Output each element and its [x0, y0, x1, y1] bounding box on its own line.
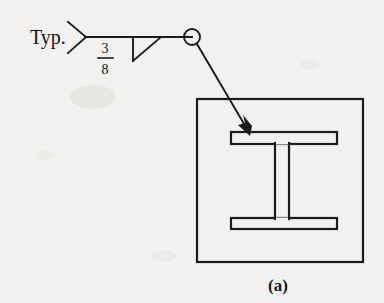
figure-container: Typ. 3 8: [0, 0, 384, 303]
fillet-weld-triangle-icon: [133, 37, 161, 61]
fraction-numerator: 3: [102, 41, 109, 56]
detail-plate-box: [197, 99, 363, 262]
tail-symbol: [68, 22, 86, 53]
fraction-denominator: 8: [102, 62, 109, 77]
figure-caption: (a): [268, 276, 288, 295]
weld-size-fraction: 3 8: [98, 41, 113, 77]
tail-note-label: Typ.: [30, 26, 66, 49]
welding-symbol-figure: Typ. 3 8: [0, 0, 384, 303]
i-beam-section-icon: [231, 132, 337, 229]
leader-arrow-icon: [197, 44, 252, 136]
